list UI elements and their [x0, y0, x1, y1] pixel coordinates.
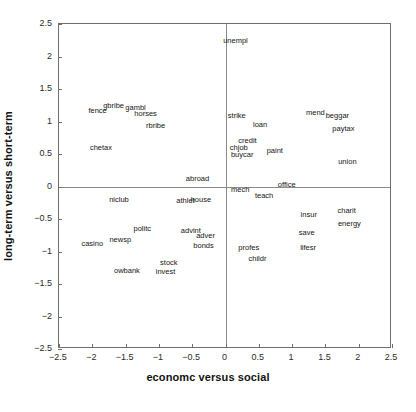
x-axis-tick-label: 1.5 — [318, 352, 331, 362]
y-axis-tick — [58, 57, 62, 58]
x-axis-tick-label: 0.5 — [252, 352, 265, 362]
y-axis-tick — [58, 24, 62, 25]
y-axis-tick — [58, 317, 62, 318]
data-point-label: energy — [338, 220, 361, 228]
data-point-label: buycar — [231, 152, 254, 160]
x-axis-tick-label: −2.5 — [49, 352, 67, 362]
data-point-label: office — [278, 181, 296, 189]
x-axis-tick — [259, 344, 260, 348]
data-point-label: fence — [88, 107, 106, 115]
data-point-label: rbribe — [146, 122, 165, 130]
x-axis-tick — [359, 344, 360, 348]
plot-area: unemplgbribefencegamblhorsesrbribechetax… — [58, 23, 391, 348]
x-axis-tick — [226, 344, 227, 348]
data-point-label: stock — [160, 259, 178, 267]
data-point-label: paytax — [332, 126, 354, 134]
data-point-label: insur — [301, 211, 317, 219]
data-point-label: profes — [238, 245, 259, 253]
x-axis-tick-label: 0 — [222, 352, 227, 362]
y-axis-tick-label: 2.5 — [39, 18, 52, 28]
data-point-label: bonds — [193, 243, 213, 251]
y-axis-tick — [58, 122, 62, 123]
y-axis-tick — [58, 187, 62, 188]
data-point-label: strike — [228, 113, 246, 121]
data-point-label: charit — [338, 207, 356, 215]
data-point-label: adver — [196, 232, 215, 240]
x-axis-title: economc versus social — [0, 371, 416, 383]
x-axis-tick — [292, 344, 293, 348]
data-point-label: childr — [248, 256, 266, 264]
data-point-label: beggar — [326, 112, 349, 120]
y-axis-tick-label: 0 — [47, 181, 52, 191]
data-point-label: unempl — [223, 37, 248, 45]
x-axis-tick-label: −1 — [153, 352, 163, 362]
y-axis-tick-label: 1 — [47, 116, 52, 126]
data-point-label: horses — [134, 111, 157, 119]
x-axis-tick — [59, 344, 60, 348]
data-point-label: politc — [133, 226, 151, 234]
data-point-label: niclub — [109, 196, 129, 204]
x-axis-tick-label: 1 — [289, 352, 294, 362]
y-axis-tick — [58, 219, 62, 220]
x-axis-tick — [126, 344, 127, 348]
data-point-label: union — [338, 158, 356, 166]
y-axis-tick-label: −0.5 — [34, 213, 52, 223]
data-point-label: save — [299, 230, 315, 238]
zero-reference-line-horizontal — [59, 187, 390, 188]
data-point-label: invest — [156, 268, 176, 276]
y-axis-title: long-term versus short-term — [2, 111, 14, 261]
data-point-label: mend — [306, 109, 325, 117]
y-axis-tick — [58, 349, 62, 350]
y-axis-tick — [58, 154, 62, 155]
data-point-label: chetax — [90, 144, 112, 152]
data-point-label: loan — [253, 121, 267, 129]
x-axis-tick-label: 2 — [355, 352, 360, 362]
data-point-label: teach — [255, 193, 273, 201]
data-point-label: paint — [267, 148, 283, 156]
x-axis-tick-label: −1.5 — [116, 352, 134, 362]
y-axis-tick-label: 1.5 — [39, 83, 52, 93]
data-point-label: mech — [231, 187, 249, 195]
x-axis-tick — [325, 344, 326, 348]
x-axis-tick-label: 2.5 — [385, 352, 398, 362]
y-axis-tick-label: 0.5 — [39, 148, 52, 158]
zero-reference-line-vertical — [226, 24, 227, 347]
data-point-label: casino — [81, 240, 103, 248]
x-axis-tick-label: −2 — [86, 352, 96, 362]
scatter-plot-figure: long-term versus short-term economc vers… — [0, 0, 416, 412]
x-axis-tick — [192, 344, 193, 348]
y-axis-tick — [58, 284, 62, 285]
data-point-label: abroad — [186, 175, 209, 183]
x-axis-tick — [392, 344, 393, 348]
y-axis-tick — [58, 252, 62, 253]
y-axis-tick — [58, 89, 62, 90]
x-axis-tick-label: −0.5 — [182, 352, 200, 362]
data-point-label: owbank — [114, 267, 140, 275]
data-point-label: newsp — [109, 237, 131, 245]
data-point-label: house — [191, 196, 211, 204]
y-axis-tick-label: 2 — [47, 51, 52, 61]
y-axis-tick-label: −1.5 — [34, 278, 52, 288]
y-axis-tick-label: −2 — [42, 311, 52, 321]
x-axis-tick — [92, 344, 93, 348]
x-axis-tick — [159, 344, 160, 348]
y-axis-tick-label: −1 — [42, 246, 52, 256]
data-point-label: lifesr — [300, 245, 316, 253]
